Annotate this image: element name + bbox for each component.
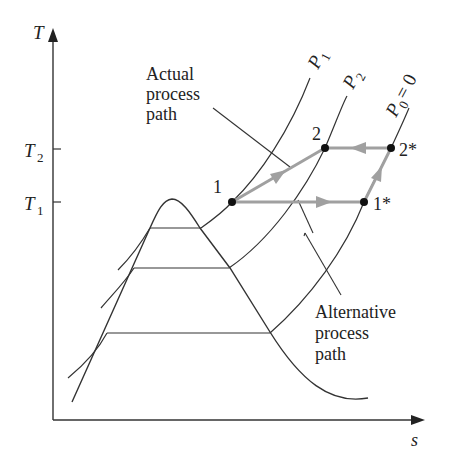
arrow-icon bbox=[350, 142, 366, 154]
svg-text:process: process bbox=[315, 323, 369, 343]
point-label-1-star: 1* bbox=[373, 194, 391, 214]
point-label-2: 2 bbox=[312, 124, 321, 144]
svg-text:Alternative: Alternative bbox=[315, 302, 396, 322]
svg-text:path: path bbox=[146, 104, 177, 124]
svg-text:Actual: Actual bbox=[146, 64, 194, 84]
svg-text:T: T bbox=[24, 140, 36, 161]
svg-text:process: process bbox=[146, 84, 200, 104]
svg-text:T: T bbox=[24, 193, 36, 214]
svg-text:1: 1 bbox=[37, 203, 44, 218]
isobar-label-p1: P 1 bbox=[303, 46, 334, 75]
isobar-p0 bbox=[270, 108, 409, 333]
annotation-alternative-process-path: Alternative process path bbox=[315, 302, 396, 364]
isobar-label-p2: P 2 bbox=[338, 66, 369, 95]
s-axis-arrow-icon bbox=[411, 415, 425, 425]
y-axis-label: T bbox=[33, 22, 45, 43]
state-point-1-star bbox=[360, 198, 368, 206]
leader-actual bbox=[213, 108, 290, 167]
x-axis-label: s bbox=[411, 430, 418, 450]
saturation-dome bbox=[72, 199, 368, 402]
isobar-p2 bbox=[229, 96, 347, 268]
isobar-label-p0: P 0 = 0 bbox=[381, 70, 425, 122]
tick-label-t1: T 1 bbox=[24, 193, 44, 218]
leader-alternative-3 bbox=[298, 200, 313, 233]
svg-text:= 0: = 0 bbox=[390, 70, 420, 102]
tick-label-t2: T 2 bbox=[24, 140, 44, 165]
arrow-icon bbox=[270, 170, 286, 184]
axes bbox=[48, 28, 425, 425]
isobar-liquid-p0 bbox=[68, 333, 107, 378]
leader-alternative-1 bbox=[305, 233, 341, 295]
point-label-2-star: 2* bbox=[399, 140, 417, 160]
point-label-1: 1 bbox=[213, 177, 222, 197]
arrow-icon bbox=[316, 196, 332, 208]
arrow-icon bbox=[371, 166, 382, 182]
isobar-p1 bbox=[201, 78, 310, 228]
annotation-actual-process-path: Actual process path bbox=[146, 64, 200, 124]
t-axis-arrow-icon bbox=[48, 28, 58, 42]
ts-diagram: T s T 2 T 1 P 1 P 2 P 0 = 0 bbox=[0, 0, 449, 460]
state-point-2 bbox=[321, 144, 329, 152]
svg-text:path: path bbox=[315, 344, 346, 364]
svg-text:2: 2 bbox=[37, 150, 44, 165]
state-point-2-star bbox=[387, 144, 395, 152]
state-point-1 bbox=[228, 198, 236, 206]
leader-alternative-2 bbox=[304, 233, 305, 236]
